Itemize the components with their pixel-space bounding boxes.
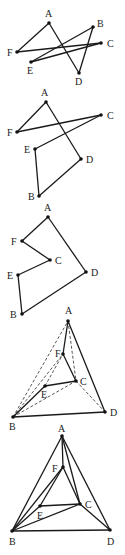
edge-D-A [46,102,81,159]
vertex-B [37,194,41,198]
edge-B-D [12,530,110,531]
vertex-C [74,379,78,383]
vertex-D [77,71,81,75]
vertex-D [79,157,83,161]
vertex-label: F [11,236,17,247]
vertex-D [84,270,88,274]
vertex-D [108,528,112,532]
vertex-C [48,258,52,262]
vertex-label: E [37,510,43,521]
vertex-B [11,415,15,419]
graph-panel-1: ABCFED [7,8,114,87]
vertex-C [99,113,103,117]
vertex-label: B [9,536,16,547]
vertex-label: A [41,87,49,98]
vertex-label: B [97,18,104,29]
edge-B-D [39,159,81,196]
vertex-label: D [86,154,93,165]
edge-B-D [22,272,86,314]
edge-A-F [22,217,48,241]
edge-D-A [68,321,105,412]
vertex-label: D [91,267,98,278]
vertex-E [43,384,47,388]
edge-C-E [35,115,101,149]
vertex-label: C [80,376,87,387]
vertex-label: E [24,144,30,155]
vertex-label: F [52,463,58,474]
vertex-label: C [55,255,62,266]
edge-B-E [12,506,40,531]
edge-E-B [18,275,22,314]
dashed-edge-B-A [13,321,68,417]
edge-A-F [17,23,49,52]
edge-D-A [48,217,86,272]
vertex-D [103,410,107,414]
vertex-F [15,130,19,134]
graph-panel-5: AFCEBD [9,423,114,547]
vertex-label: C [85,499,92,510]
vertex-A [46,215,50,219]
edge-C-F [17,43,101,52]
vertex-label: F [7,127,13,138]
vertex-E [29,60,33,64]
edge-E-B [35,149,39,196]
vertex-F [15,50,19,54]
graph-panel-3: AFCEDB [7,202,98,320]
vertex-F [61,465,65,469]
edge-A-D [62,436,110,530]
vertex-A [66,319,70,323]
vertex-A [60,434,64,438]
vertex-label: A [58,423,66,434]
vertex-E [16,273,20,277]
vertex-label: B [9,421,16,432]
edge-F-C [22,241,50,260]
vertex-B [20,312,24,316]
vertex-label: B [10,309,17,320]
vertex-E [33,147,37,151]
vertex-A [44,100,48,104]
edge-E-C [31,43,101,62]
vertex-A [47,21,51,25]
vertex-E [38,504,42,508]
graph-figure: ABCFEDACFEDBAFCEDBAFCEDBAFCEBD [0,0,125,555]
vertex-label: A [44,202,52,213]
vertex-label: D [107,536,114,547]
vertex-C [99,41,103,45]
dashed-edge-B-F [13,354,63,417]
vertex-F [20,239,24,243]
vertex-B [91,25,95,29]
edge-B-D [13,412,105,417]
edge-C-E [18,260,50,275]
vertex-B [10,529,14,533]
vertex-label: C [107,38,114,49]
vertex-label: C [107,110,114,121]
vertex-label: B [28,191,35,202]
vertex-label: A [65,305,73,316]
vertex-label: D [75,76,82,87]
vertex-label: E [27,65,33,76]
vertex-label: E [7,270,13,281]
vertex-label: D [110,407,117,418]
vertex-label: E [41,389,47,400]
vertex-label: F [7,47,13,58]
graph-panel-4: AFCEDB [9,305,117,432]
vertex-C [78,502,82,506]
vertex-F [61,352,65,356]
vertex-label: F [55,348,61,359]
vertex-label: A [45,8,53,19]
graph-panel-2: ACFEDB [7,87,114,202]
